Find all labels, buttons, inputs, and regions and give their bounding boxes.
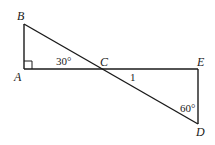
label-b: B xyxy=(17,9,25,23)
diagram-svg: B A C E D 30° 1 60° xyxy=(0,0,215,145)
length-1-label: 1 xyxy=(130,71,136,83)
segment-bd xyxy=(24,24,198,124)
angle-30-label: 30° xyxy=(56,55,71,67)
label-e: E xyxy=(196,55,205,69)
label-d: D xyxy=(195,125,205,139)
right-angle-marker-a xyxy=(24,61,32,69)
geometry-diagram: B A C E D 30° 1 60° xyxy=(0,0,215,145)
label-c: C xyxy=(100,55,109,69)
label-a: A xyxy=(13,70,22,84)
angle-60-label: 60° xyxy=(180,102,195,114)
